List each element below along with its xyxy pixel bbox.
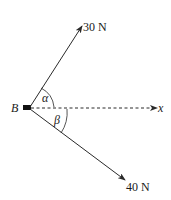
force-40n-label: 40 N	[126, 180, 150, 194]
point-label: B	[11, 101, 19, 115]
axis-x-label: x	[157, 101, 164, 115]
force-30n-label: 30 N	[83, 20, 107, 34]
force-40n-arrow	[30, 109, 125, 180]
beta-label: β	[53, 113, 60, 127]
force-30n-arrow	[30, 26, 82, 107]
force-diagram: B 30 N α β x 40 N	[0, 0, 171, 200]
beta-arc	[61, 109, 67, 133]
point-block	[23, 105, 31, 110]
alpha-label: α	[42, 91, 49, 105]
